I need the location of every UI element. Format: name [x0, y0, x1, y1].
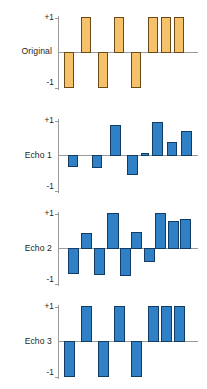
tick-label-bottom: -1	[32, 368, 54, 377]
bar	[68, 155, 78, 167]
y-axis-tick-bottom	[55, 377, 59, 378]
y-axis-tick-bottom	[55, 284, 59, 285]
y-axis-tick-top	[55, 121, 59, 122]
bar	[81, 306, 92, 342]
bar	[161, 17, 171, 53]
y-axis-line	[58, 212, 59, 286]
bar	[114, 17, 124, 53]
bar	[114, 306, 125, 342]
bar	[110, 125, 121, 156]
tick-label-top: +1	[32, 13, 54, 22]
bar	[168, 221, 179, 249]
panel-label-original: Original	[0, 46, 52, 56]
tick-label-top: +1	[32, 302, 54, 311]
tick-label-bottom: -1	[32, 182, 54, 191]
bar	[180, 219, 191, 249]
panel-echo-3: +1 Echo 3 -1	[0, 290, 207, 389]
bar	[64, 341, 75, 377]
bar	[127, 155, 138, 175]
y-axis-tick-bottom	[55, 191, 59, 192]
bar	[131, 232, 142, 249]
y-axis-line	[58, 305, 59, 379]
bar	[98, 341, 109, 377]
bar	[81, 17, 91, 53]
y-axis-tick-bottom	[55, 88, 59, 89]
panel-original: +1 Original -1	[0, 0, 207, 104]
tick-label-bottom: -1	[32, 78, 54, 87]
bar	[98, 52, 108, 88]
bar	[144, 248, 155, 262]
bar	[120, 248, 131, 276]
bar	[131, 52, 141, 88]
panel-label-echo-1: Echo 1	[0, 150, 52, 160]
y-axis-line	[58, 119, 59, 193]
panel-echo-2: +1 Echo 2 -1	[0, 197, 207, 290]
panel-label-echo-3: Echo 3	[0, 336, 52, 346]
y-axis-line	[58, 16, 59, 90]
bar	[92, 155, 102, 168]
bar	[94, 248, 105, 275]
panel-label-echo-2: Echo 2	[0, 243, 52, 253]
bar	[181, 131, 192, 157]
bar	[174, 306, 185, 342]
tick-label-bottom: -1	[32, 275, 54, 284]
bar	[81, 233, 92, 249]
tick-label-top: +1	[32, 116, 54, 125]
bar	[174, 17, 184, 53]
panel-echo-1: +1 Echo 1 -1	[0, 104, 207, 197]
y-axis-tick-top	[55, 18, 59, 19]
bar	[107, 213, 119, 249]
tick-label-top: +1	[32, 209, 54, 218]
echo-decomposition-figure: +1 Original -1 +1 Echo 1 -1 +1 Echo 2 -1…	[0, 0, 207, 389]
bar	[167, 142, 177, 156]
bar	[161, 306, 172, 342]
bar	[148, 17, 158, 53]
bar	[131, 341, 142, 377]
y-axis-tick-top	[55, 307, 59, 308]
bar	[64, 52, 74, 88]
y-axis-tick-top	[55, 214, 59, 215]
bar	[148, 306, 159, 342]
bar	[152, 122, 163, 156]
bar	[68, 248, 79, 274]
bar	[155, 213, 166, 249]
bar	[141, 153, 149, 156]
